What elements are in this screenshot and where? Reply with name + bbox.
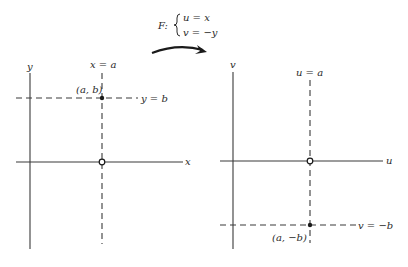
y-axis-label: y — [26, 61, 33, 72]
line-u-equals-a-label: u = a — [296, 67, 323, 78]
mapping-name: F: — [157, 20, 168, 31]
line-v-equals-minus-b-label: v = −b — [358, 220, 393, 231]
v-axis-label: v — [230, 59, 236, 70]
reflection-diagram: F: u = x v = −y y x x = a y = b (a, b) v… — [0, 0, 408, 267]
point-a-0-open — [99, 159, 105, 165]
x-axis-label: x — [185, 156, 191, 167]
line-x-equals-a-label: x = a — [90, 59, 116, 70]
line-y-equals-b-label: y = b — [140, 93, 168, 104]
uv-plane: v u u = a v = −b (a, −b) — [220, 59, 393, 249]
mapping-definition: F: u = x v = −y — [157, 12, 218, 38]
u-axis-label: u — [386, 155, 392, 166]
mapping-arrow-icon — [152, 45, 207, 54]
point-a-b-label: (a, b) — [76, 84, 103, 95]
xy-plane: y x x = a y = b (a, b) — [16, 59, 191, 249]
point-a-0-open — [307, 158, 313, 164]
brace-icon — [174, 14, 180, 36]
mapping-equation-v: v = −y — [183, 27, 218, 38]
point-a-minus-b-label: (a, −b) — [272, 232, 307, 243]
point-a-b — [100, 96, 104, 100]
point-a-minus-b — [308, 223, 312, 227]
mapping-equation-u: u = x — [183, 12, 210, 23]
